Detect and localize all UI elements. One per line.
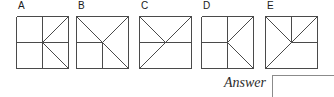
option-figure-a[interactable]: [16, 16, 69, 69]
answer-label: Answer: [224, 74, 266, 92]
option-label-e: E: [267, 0, 274, 12]
diagonal-center-to-top-right: [43, 17, 69, 43]
option-label-d: D: [203, 0, 210, 12]
diagonal-top-left-to-center: [140, 17, 166, 43]
option-label-a: A: [18, 0, 25, 12]
diagonal-top-left-to-center: [266, 17, 292, 43]
diagonal-center-to-top-right: [228, 17, 254, 43]
option-figure-e[interactable]: [265, 16, 318, 69]
option-figure-b[interactable]: [76, 16, 129, 69]
diagonal-top-right-to-center: [103, 17, 129, 43]
answer-row: Answer: [224, 72, 331, 95]
diagonal-center-to-bottom-right: [43, 43, 69, 69]
option-label-c: C: [141, 0, 148, 12]
diagonal-center-to-bottom-right: [228, 43, 254, 69]
option-figure-c[interactable]: [139, 16, 192, 69]
option-figure-d[interactable]: [201, 16, 254, 69]
answer-input-box[interactable]: [272, 75, 334, 97]
option-label-b: B: [78, 0, 85, 12]
